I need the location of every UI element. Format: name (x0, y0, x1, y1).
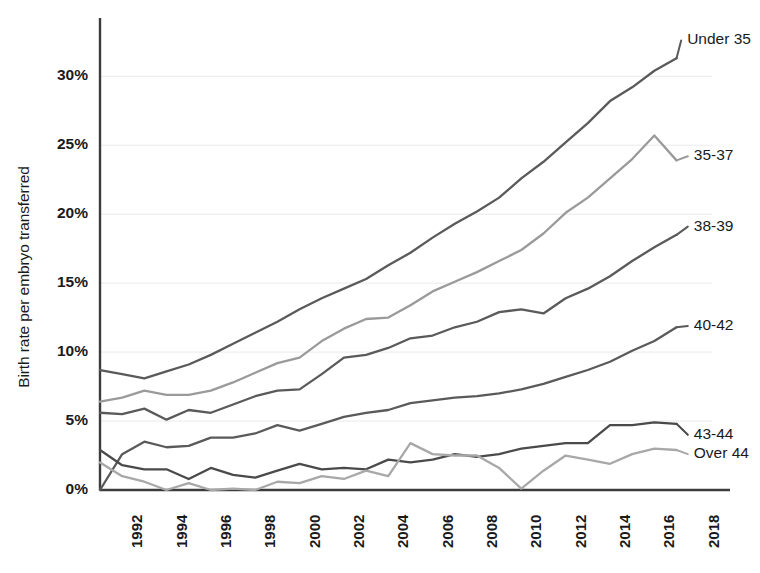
series-leader-1 (677, 156, 688, 160)
y-tick-label: 25% (22, 135, 88, 153)
x-tick-label: 2004 (394, 515, 411, 548)
x-tick-label: 1996 (217, 515, 234, 548)
x-tick-label: 1998 (261, 515, 278, 548)
series-line-35-37 (100, 136, 677, 402)
x-tick-label: 2000 (306, 515, 323, 548)
series-label-40-42: 40-42 (694, 316, 734, 334)
x-tick-label: 2002 (350, 515, 367, 548)
x-tick-label: 2008 (483, 515, 500, 548)
y-tick-label: 0% (22, 480, 88, 498)
x-tick-label: 2006 (439, 515, 456, 548)
x-tick-label: 1994 (173, 515, 190, 548)
plot-area (0, 0, 760, 573)
series-leader-4 (677, 424, 688, 435)
series-leader-2 (677, 227, 688, 235)
y-tick-label: 10% (22, 342, 88, 360)
x-tick-label: 2014 (616, 515, 633, 548)
y-tick-label: 20% (22, 204, 88, 222)
series-label-38-39: 38-39 (694, 217, 734, 235)
series-label-43-44: 43-44 (694, 425, 734, 443)
y-tick-label: 30% (22, 66, 88, 84)
birth-rate-line-chart: Birth rate per embryo transferred 0%5%10… (0, 0, 760, 573)
y-tick-label: 5% (22, 411, 88, 429)
series-line-over-44 (100, 443, 677, 490)
x-tick-label: 2016 (660, 515, 677, 548)
series-label-under-35: Under 35 (687, 30, 751, 48)
x-tick-label: 2018 (705, 515, 722, 548)
series-label-35-37: 35-37 (694, 146, 734, 164)
x-tick-label: 2010 (527, 515, 544, 548)
x-tick-label: 2012 (572, 515, 589, 548)
series-line-43-44 (100, 422, 677, 479)
series-line-38-39 (100, 235, 677, 420)
series-leader-0 (677, 40, 682, 58)
x-tick-label: 1992 (128, 515, 145, 548)
series-leader-5 (677, 450, 688, 454)
y-tick-label: 15% (22, 273, 88, 291)
series-leader-3 (677, 326, 688, 327)
series-line-under-35 (100, 58, 677, 378)
series-label-over-44: Over 44 (694, 444, 749, 462)
